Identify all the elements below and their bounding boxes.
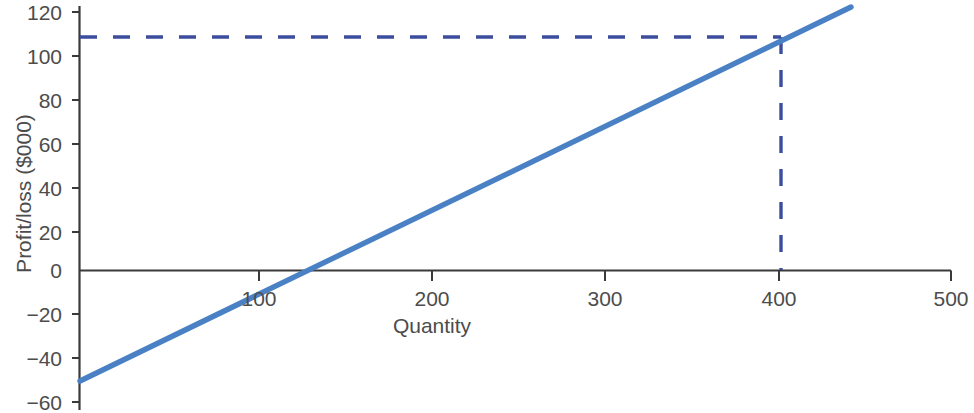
y-axis-title: Profit/loss ($000)	[13, 94, 34, 294]
x-tick-label-300: 300	[587, 288, 622, 309]
y-tick-label-minus-40: −40	[0, 348, 62, 369]
y-tick-label-minus-20: −20	[0, 304, 62, 325]
y-axis-ticks	[72, 12, 80, 402]
chart-plot-area	[0, 0, 974, 413]
x-tick-label-400: 400	[761, 288, 796, 309]
x-tick-label-500: 500	[933, 288, 968, 309]
x-axis-title: Quantity	[393, 315, 471, 336]
profit-loss-chart: 120 100 80 60 40 20 0 −20 −40 −60 100 20…	[0, 0, 974, 413]
y-tick-label-100: 100	[0, 46, 62, 67]
x-axis-ticks	[259, 271, 951, 282]
x-tick-label-100: 100	[241, 288, 276, 309]
x-tick-label-200: 200	[414, 288, 449, 309]
y-tick-label-minus-60: −60	[0, 392, 62, 413]
y-tick-label-120: 120	[0, 2, 62, 23]
